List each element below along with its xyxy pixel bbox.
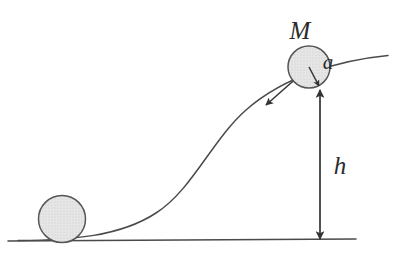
radius-label: a <box>323 50 334 74</box>
diagram-canvas: M a h <box>0 0 404 273</box>
physics-diagram-figure: M a h <box>0 0 404 273</box>
ball-at-base <box>39 196 86 243</box>
mass-label: M <box>289 17 312 44</box>
height-label: h <box>334 152 347 179</box>
